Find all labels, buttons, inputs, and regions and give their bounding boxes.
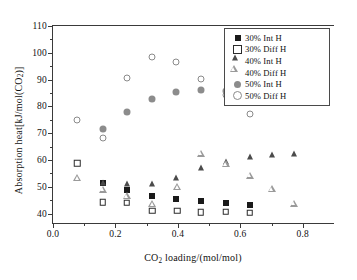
y-axis-tick-label: 40 <box>37 209 47 219</box>
data-point <box>123 74 130 81</box>
data-point <box>148 200 156 207</box>
y-axis-tick-label: 60 <box>37 155 47 165</box>
x-axis-tick <box>178 223 179 228</box>
y-axis-minor-tick <box>50 93 53 94</box>
data-point <box>197 75 204 82</box>
x-axis-tick-label: 0.8 <box>297 229 309 239</box>
data-point <box>149 54 156 61</box>
data-point <box>149 95 156 102</box>
data-point <box>246 172 254 179</box>
legend-label: 40% Diff H <box>245 68 286 78</box>
data-point <box>173 175 179 181</box>
y-axis-tick <box>48 106 53 107</box>
data-point <box>99 126 106 133</box>
y-axis-tick-label: 80 <box>37 101 47 111</box>
data-point <box>197 150 205 157</box>
data-point <box>149 180 155 186</box>
data-point <box>268 185 276 192</box>
y-axis-title: Absorption heat[kJ/mol(CO2)] <box>13 25 26 235</box>
legend-label: 30% Diff H <box>245 44 286 54</box>
y-axis-tick <box>48 133 53 134</box>
data-point <box>100 179 106 185</box>
data-point <box>74 116 81 123</box>
data-point <box>197 87 204 94</box>
data-point <box>74 160 81 167</box>
data-point <box>247 202 253 208</box>
y-axis-tick <box>48 80 53 81</box>
data-point <box>222 208 229 215</box>
y-axis-tick <box>48 53 53 54</box>
x-axis-tick <box>303 223 304 228</box>
legend-marker-icon <box>230 69 245 76</box>
data-point <box>172 59 179 66</box>
x-axis-minor-tick <box>84 223 85 226</box>
data-point <box>123 192 131 199</box>
x-axis-title: CO2 loading/(mol/mol) <box>52 252 334 265</box>
data-point <box>100 199 107 206</box>
x-axis-minor-tick <box>272 223 273 226</box>
legend-label: 30% Int H <box>245 33 282 43</box>
legend-marker-icon <box>230 45 245 54</box>
legend-marker-icon <box>230 91 245 100</box>
legend-item[interactable]: 40% Int H <box>230 55 325 67</box>
x-axis-tick <box>53 223 54 228</box>
x-axis-tick <box>240 223 241 228</box>
y-axis-minor-tick <box>50 39 53 40</box>
y-axis-minor-tick <box>50 173 53 174</box>
x-axis-tick-label: 0.2 <box>109 229 121 239</box>
data-point <box>222 160 230 167</box>
y-axis-tick-label: 50 <box>37 182 47 192</box>
legend-label: 50% Diff H <box>245 91 286 101</box>
y-axis-tick <box>48 160 53 161</box>
x-axis-tick-label: 0.6 <box>234 229 246 239</box>
chart-legend: 30% Int H30% Diff H40% Int H40% Diff H50… <box>224 28 330 106</box>
data-point <box>173 183 181 190</box>
data-point <box>269 151 275 157</box>
x-axis-minor-tick <box>147 223 148 226</box>
data-point <box>291 150 297 156</box>
data-point <box>198 165 204 171</box>
data-point <box>149 208 156 215</box>
data-point <box>246 209 253 216</box>
x-axis-minor-tick <box>209 223 210 226</box>
y-axis-tick <box>48 26 53 27</box>
y-axis-tick-label: 70 <box>37 128 47 138</box>
legend-marker-icon <box>230 81 245 88</box>
y-axis-minor-tick <box>50 200 53 201</box>
legend-label: 40% Int H <box>245 56 282 66</box>
y-axis-minor-tick <box>50 147 53 148</box>
data-point <box>197 209 204 216</box>
legend-item[interactable]: 30% Int H <box>230 32 325 44</box>
x-axis-tick <box>115 223 116 228</box>
data-point <box>99 135 106 142</box>
data-point <box>247 154 253 160</box>
legend-item[interactable]: 50% Int H <box>230 78 325 90</box>
data-point <box>172 88 179 95</box>
y-axis-tick <box>48 214 53 215</box>
y-axis-minor-tick <box>50 120 53 121</box>
y-axis-tick-label: 90 <box>37 75 47 85</box>
legend-item[interactable]: 50% Diff H <box>230 90 325 102</box>
legend-marker-icon <box>230 35 245 41</box>
legend-item[interactable]: 40% Diff H <box>230 67 325 79</box>
y-axis-tick <box>48 187 53 188</box>
legend-label: 50% Int H <box>245 79 282 89</box>
legend-marker-icon <box>230 58 245 64</box>
y-axis-tick-label: 100 <box>32 48 47 58</box>
data-point <box>123 199 130 206</box>
legend-item[interactable]: 30% Diff H <box>230 44 325 56</box>
data-point <box>123 109 130 116</box>
data-point <box>99 185 107 192</box>
x-axis-tick-label: 0.4 <box>172 229 184 239</box>
data-point <box>246 111 253 118</box>
data-point <box>198 198 204 204</box>
data-point <box>149 193 155 199</box>
data-point <box>173 196 179 202</box>
data-point <box>124 181 130 187</box>
data-point <box>223 200 229 206</box>
data-point <box>174 207 181 214</box>
chart-figure: Absorption heat[kJ/mol(CO2)] 40506070809… <box>0 0 357 280</box>
y-axis-minor-tick <box>50 66 53 67</box>
y-axis-tick-label: 110 <box>33 21 48 31</box>
data-point <box>290 200 298 207</box>
